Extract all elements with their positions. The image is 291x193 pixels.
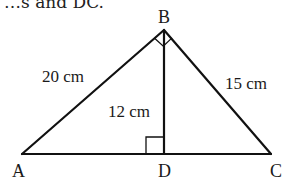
length-label-bd: 12 cm <box>108 103 150 120</box>
triangle-diagram <box>0 0 291 193</box>
vertex-label-b: B <box>158 8 170 26</box>
length-label-ab: 20 cm <box>42 68 84 85</box>
vertex-label-d: D <box>158 162 171 180</box>
right-angle-marker-d <box>146 137 164 154</box>
vertex-label-c: C <box>270 162 282 180</box>
length-label-bc: 15 cm <box>225 75 267 92</box>
segment-ab <box>22 30 164 154</box>
vertex-label-a: A <box>12 162 25 180</box>
